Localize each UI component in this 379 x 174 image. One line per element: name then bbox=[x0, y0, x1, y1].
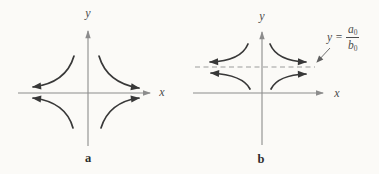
fraction-numerator: a0 bbox=[346, 24, 360, 37]
trajectory-a-bottom-right bbox=[101, 98, 139, 128]
trajectory-a-top-right bbox=[99, 56, 139, 88]
trajectory-b-bottom-left bbox=[211, 73, 250, 89]
panel-a-x-axis-label: x bbox=[159, 86, 164, 98]
panel-a-caption: a bbox=[85, 152, 91, 165]
trajectory-b-top-right bbox=[270, 44, 306, 62]
panel-b-y-axis-label: y bbox=[259, 10, 264, 22]
asymptote-fraction: a0 b0 bbox=[346, 24, 360, 51]
asymptote-equals: = bbox=[335, 32, 343, 44]
trajectory-b-top-left bbox=[210, 44, 248, 62]
phase-portrait-figure: y x a y x b y = a0 b0 bbox=[0, 0, 379, 174]
asymptote-variable: y bbox=[327, 32, 332, 44]
panel-b-caption: b bbox=[258, 153, 265, 166]
asymptote-equation-label: y = a0 b0 bbox=[327, 24, 359, 51]
trajectory-b-bottom-right bbox=[271, 74, 306, 89]
panel-b-x-axis-label: x bbox=[334, 87, 339, 99]
fraction-denominator: b0 bbox=[346, 37, 360, 52]
panel-a-y-axis-label: y bbox=[85, 7, 90, 19]
trajectory-a-bottom-left bbox=[33, 98, 73, 128]
trajectory-a-top-left bbox=[33, 56, 74, 87]
